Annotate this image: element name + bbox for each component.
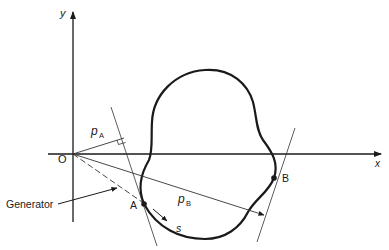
diagram-canvas: y x O Generator A B p A p B s <box>0 0 389 250</box>
tangent-line-a <box>111 107 157 246</box>
y-axis-label: y <box>59 7 67 19</box>
perpendicular-pa <box>73 138 124 154</box>
svg-text:p: p <box>177 192 185 206</box>
point-b-marker <box>271 175 277 181</box>
generator-line <box>73 154 142 202</box>
tangent-line-b <box>257 128 295 242</box>
generator-pointer-arrow <box>58 188 117 204</box>
pb-label: p B <box>177 192 191 208</box>
point-a-marker <box>141 201 147 207</box>
generator-label: Generator <box>6 198 54 210</box>
origin-label: O <box>58 153 67 165</box>
x-axis-label: x <box>374 158 381 169</box>
svg-text:p: p <box>90 124 98 138</box>
pa-label: p A <box>90 124 104 140</box>
svg-text:A: A <box>99 131 104 140</box>
perpendicular-pb <box>73 154 264 215</box>
arc-length-label: s <box>176 222 182 234</box>
point-a-label: A <box>130 199 137 211</box>
svg-text:B: B <box>186 199 191 208</box>
point-b-label: B <box>282 172 289 184</box>
right-angle-marker <box>117 140 126 145</box>
